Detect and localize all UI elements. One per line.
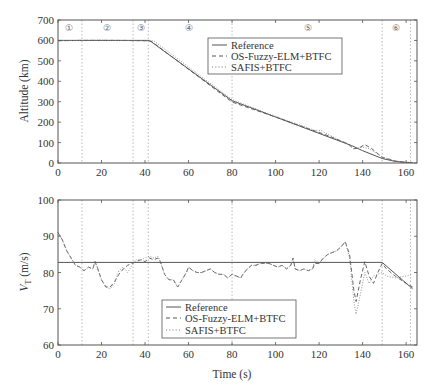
- y-tick-label: 500: [38, 55, 55, 67]
- y-tick-label: 300: [38, 96, 55, 108]
- x-tick-label: 60: [183, 166, 195, 178]
- y-tick-label: 60: [43, 339, 55, 351]
- x-tick-label: 80: [227, 348, 239, 360]
- legend: Reference OS-Fuzzy-ELM+BTFC SAFIS+BTFC: [208, 38, 342, 74]
- legend: Reference OS-Fuzzy-ELM+BTFC SAFIS+BTFC: [162, 300, 296, 338]
- x-axis-label: Time (s): [213, 368, 252, 381]
- x-tick-label: 0: [55, 348, 61, 360]
- phase-label: ①: [65, 23, 73, 33]
- x-tick-label: 120: [311, 348, 328, 360]
- y-tick-label: 80: [43, 267, 55, 279]
- x-tick-label: 100: [267, 166, 284, 178]
- y-tick-label: 0: [49, 157, 55, 169]
- phase-label: ④: [185, 23, 193, 33]
- phase-label: ⑤: [304, 23, 312, 33]
- y-tick-label: 70: [43, 303, 55, 315]
- y-axis-label: VT (m/s): [18, 252, 33, 291]
- y-tick-label: 700: [38, 14, 55, 26]
- x-tick-label: 80: [227, 166, 239, 178]
- x-tick-label: 40: [140, 166, 152, 178]
- velocity-plot: 02040608010012014016060708090100 VT (m/s…: [18, 194, 417, 381]
- y-tick-label: 90: [43, 230, 55, 242]
- x-tick-label: 40: [140, 348, 152, 360]
- phase-label: ②: [103, 23, 111, 33]
- y-tick-label: 100: [38, 194, 55, 206]
- x-tick-label: 140: [354, 348, 371, 360]
- legend-item-os-fuzzy: OS-Fuzzy-ELM+BTFC: [231, 51, 331, 62]
- x-tick-label: 20: [96, 166, 108, 178]
- legend-item-safis: SAFIS+BTFC: [185, 325, 246, 336]
- legend-item-reference: Reference: [185, 302, 228, 313]
- y-tick-label: 100: [38, 137, 55, 149]
- x-tick-label: 160: [398, 166, 415, 178]
- phase-labels: ①②③④⑤⑥: [65, 23, 400, 33]
- series-os-fuzzy-elm-btfc: [58, 233, 413, 302]
- altitude-plot: 0204060801001201401600100200300400500600…: [18, 14, 417, 178]
- y-axis-label: Altitude (km): [18, 59, 31, 122]
- x-tick-label: 140: [354, 166, 371, 178]
- phase-label: ⑥: [392, 23, 400, 33]
- x-tick-label: 0: [55, 166, 61, 178]
- figure: 0204060801001201401600100200300400500600…: [0, 0, 437, 387]
- phase-label: ③: [137, 23, 145, 33]
- x-tick-label: 60: [183, 348, 195, 360]
- x-tick-label: 100: [267, 348, 284, 360]
- y-tick-label: 200: [38, 116, 55, 128]
- x-tick-label: 160: [398, 348, 415, 360]
- legend-item-reference: Reference: [231, 40, 274, 51]
- legend-item-safis: SAFIS+BTFC: [231, 62, 292, 73]
- y-tick-label: 600: [38, 34, 55, 46]
- x-tick-label: 120: [311, 166, 328, 178]
- legend-item-os-fuzzy: OS-Fuzzy-ELM+BTFC: [185, 313, 285, 324]
- x-tick-label: 20: [96, 348, 108, 360]
- y-tick-label: 400: [38, 75, 55, 87]
